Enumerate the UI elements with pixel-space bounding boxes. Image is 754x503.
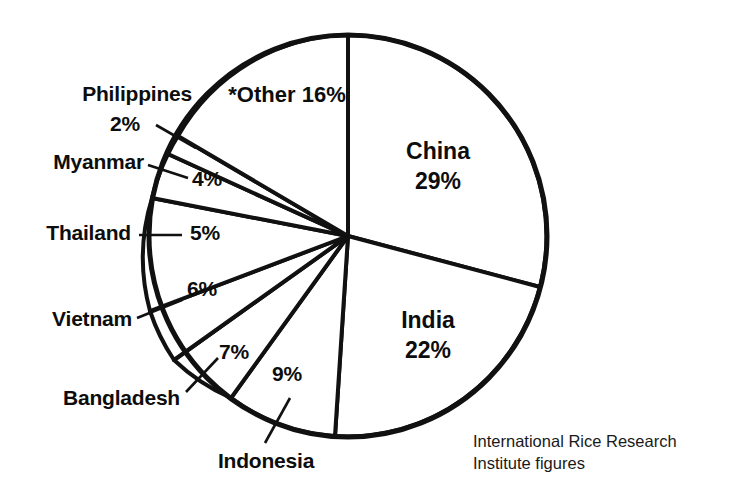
pie-chart-figure: Philippines 2% Myanmar 4% Thailand 5% Vi… [0, 0, 754, 503]
label-china: China [383, 137, 493, 167]
value-china: 29% [383, 167, 493, 197]
pie-chart-graphic [0, 0, 754, 503]
label-philippines: Philippines [30, 82, 192, 107]
label-china-group: China 29% [383, 137, 493, 197]
label-thailand: Thailand [10, 221, 131, 246]
value-thailand: 5% [190, 221, 220, 245]
label-india: India [377, 306, 479, 336]
value-india: 22% [377, 336, 479, 366]
value-indonesia: 9% [272, 362, 302, 386]
label-myanmar: Myanmar [10, 150, 144, 175]
label-other-group: *Other 16% [228, 81, 346, 110]
label-bangladesh: Bangladesh [10, 386, 180, 411]
source-line-1: International Rice Research [473, 430, 677, 452]
source-line-2: Institute figures [473, 452, 677, 474]
value-bangladesh: 7% [219, 340, 249, 364]
value-myanmar: 4% [192, 167, 222, 191]
source-attribution: International Rice Research Institute fi… [473, 430, 677, 475]
label-indonesia: Indonesia [190, 449, 342, 474]
value-other: 16% [302, 82, 346, 107]
label-other: *Other [228, 82, 295, 107]
label-india-group: India 22% [377, 306, 479, 366]
value-vietnam: 6% [187, 277, 217, 301]
value-philippines: 2% [110, 112, 140, 136]
label-vietnam: Vietnam [10, 307, 132, 332]
